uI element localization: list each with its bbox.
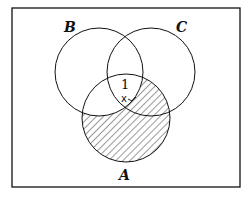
label-c: C	[176, 19, 187, 35]
label-b: B	[63, 19, 76, 35]
label-a: A	[117, 167, 130, 183]
region-label-x: x	[121, 93, 127, 104]
region-label-abc: 1	[121, 77, 129, 92]
venn-diagram: B C A 1 x	[0, 0, 251, 197]
